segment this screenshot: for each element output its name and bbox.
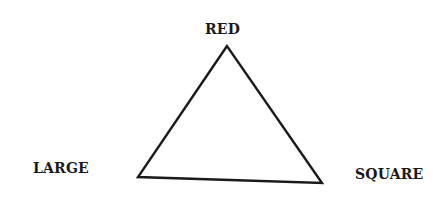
vertex-label-bottom-left: LARGE bbox=[33, 161, 89, 175]
vertex-label-bottom-right: SQUARE bbox=[355, 167, 423, 181]
vertex-label-top: RED bbox=[205, 22, 240, 36]
triangle-diagram: RED LARGE SQUARE bbox=[0, 0, 448, 221]
triangle-outline bbox=[138, 46, 322, 183]
